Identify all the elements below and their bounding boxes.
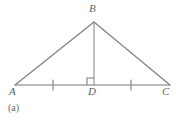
segment-side-BC [94, 22, 170, 85]
geometry-figure: A B D C (a) [0, 0, 176, 121]
vertex-label-D: D [88, 86, 96, 97]
segment-side-AB [15, 22, 94, 85]
vertex-label-B: B [89, 3, 96, 14]
vertex-label-A: A [9, 86, 16, 97]
figure-caption: (a) [8, 102, 19, 113]
vertex-label-C: C [162, 86, 169, 97]
right-angle-marker-icon [87, 78, 94, 85]
geometry-diagram-svg [0, 0, 176, 121]
